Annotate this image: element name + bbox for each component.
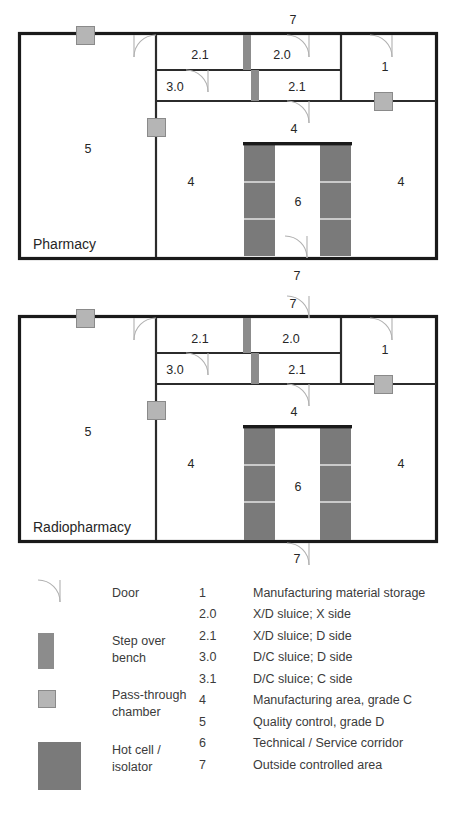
legend-item-number: 2.1 (199, 629, 216, 643)
pass-through-group (77, 27, 393, 137)
legend-item-desc: D/C sluice; C side (253, 672, 352, 686)
legend-symbol-pass-through-chamber (39, 691, 56, 708)
outer-wall (20, 317, 437, 542)
interior-walls (155, 35, 436, 257)
plan-title: Radiopharmacy (33, 519, 131, 535)
legend-symbol-hot-cell (38, 742, 81, 790)
legend-item-desc: Technical / Service corridor (253, 736, 403, 750)
legend-item-desc: Manufacturing area, grade C (253, 693, 412, 707)
legend-item-desc: Quality control, grade D (253, 715, 384, 729)
legend-label-door: Door (112, 586, 139, 600)
plan-radiopharmacy: 5 4 4 6 2.1 2.0 3.0 2.1 1 7 7 4 Radiopha… (20, 296, 437, 566)
pass-through-chamber (375, 93, 393, 111)
legend-item-number: 6 (199, 736, 206, 750)
plan-title: Pharmacy (33, 236, 96, 252)
interior-walls (155, 318, 436, 540)
legend-items: 1 Manufacturing material storage 2.0 X/D… (199, 586, 425, 772)
legend-item-number: 3.0 (199, 650, 216, 664)
outside-label: 7 (290, 13, 297, 27)
outside-label: 4 (291, 122, 298, 136)
legend-item-number: 2.0 (199, 607, 216, 621)
legend-item-number: 5 (199, 715, 206, 729)
pass-through-chamber (77, 310, 95, 328)
room-label: 4 (188, 457, 195, 471)
step-over-bench (243, 318, 251, 353)
room-label: 6 (295, 195, 302, 209)
legend: Door Step over bench Pass-through chambe… (38, 580, 425, 790)
pass-through-chamber (77, 27, 95, 45)
outside-labels: 7 7 4 (290, 13, 301, 283)
legend-item-number: 3.1 (199, 672, 216, 686)
room-label: 2.1 (191, 48, 208, 62)
room-label: 3.0 (166, 363, 183, 377)
pass-through-chamber (148, 119, 166, 137)
room-label: 1 (382, 343, 389, 357)
outside-label: 4 (291, 405, 298, 419)
floor-plan-svg: 5 4 4 6 2.1 2.0 3.0 2.1 1 7 7 4 Pharmacy (0, 0, 457, 822)
room-label: 6 (295, 480, 302, 494)
pass-through-chamber (148, 402, 166, 420)
room-label: 4 (398, 457, 405, 471)
floor-plan-figure: 5 4 4 6 2.1 2.0 3.0 2.1 1 7 7 4 Pharmacy (0, 0, 457, 822)
room-label: 5 (85, 142, 92, 156)
legend-label-step-over-bench-line1: Step over (112, 634, 166, 648)
corridor-head-wall (243, 425, 352, 428)
room-label: 2.0 (282, 332, 299, 346)
plan-pharmacy: 5 4 4 6 2.1 2.0 3.0 2.1 1 7 7 4 Pharmacy (20, 13, 437, 283)
legend-label-hot-cell-line1: Hot cell / (112, 743, 161, 757)
outside-label: 7 (290, 297, 297, 311)
room-label: 2.0 (273, 48, 290, 62)
outside-label: 7 (294, 269, 301, 283)
room-label: 2.1 (288, 363, 305, 377)
step-over-bench (251, 353, 259, 384)
legend-item-desc: Manufacturing material storage (253, 586, 425, 600)
legend-label-hot-cell-line2: isolator (112, 760, 152, 774)
legend-item-desc: X/D sluice; X side (253, 607, 351, 621)
legend-item-desc: X/D sluice; D side (253, 629, 352, 643)
legend-item-number: 7 (199, 758, 206, 772)
legend-item-desc: D/C sluice; D side (253, 650, 352, 664)
room-label: 3.0 (166, 80, 183, 94)
step-over-bench (251, 70, 259, 101)
outer-wall (20, 34, 437, 259)
legend-item-desc: Outside controlled area (253, 758, 382, 772)
legend-item-number: 4 (199, 693, 206, 707)
room-label: 1 (382, 60, 389, 74)
legend-label-step-over-bench-line2: bench (112, 651, 146, 665)
room-label: 2.1 (191, 332, 208, 346)
step-over-bench (243, 35, 251, 70)
room-label: 4 (398, 175, 405, 189)
room-label: 5 (85, 425, 92, 439)
outside-label: 7 (294, 552, 301, 566)
legend-item-number: 1 (199, 586, 206, 600)
legend-label-pass-through-line2: chamber (112, 705, 161, 719)
pass-through-group (77, 310, 393, 420)
legend-symbol-step-over-bench (38, 633, 54, 669)
room-label: 4 (188, 175, 195, 189)
room-label: 2.1 (288, 80, 305, 94)
pass-through-chamber (375, 376, 393, 394)
legend-label-pass-through-line1: Pass-through (112, 688, 186, 702)
corridor-head-wall (243, 142, 352, 145)
legend-symbol-door (38, 580, 60, 602)
